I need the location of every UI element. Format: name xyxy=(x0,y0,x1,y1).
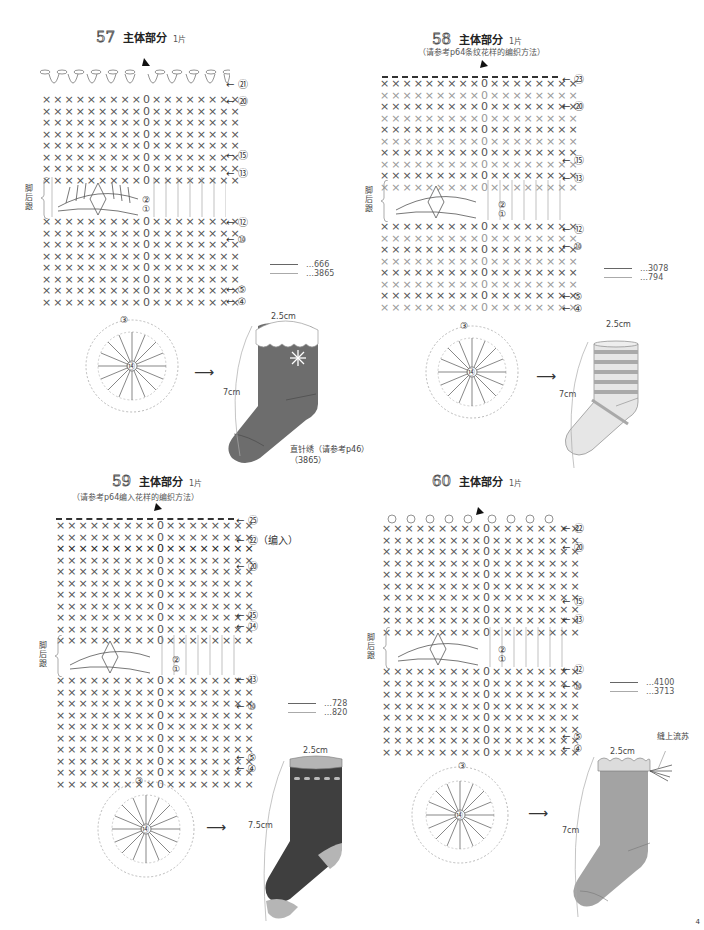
stitch-grid-upper: ×××××××××0×××××××××××××××××0××××××××××××… xyxy=(56,520,256,647)
row-marker: ← ⑩ xyxy=(562,681,583,692)
row-marker: ← ⑳ xyxy=(562,539,584,554)
heel-row-1: ① xyxy=(172,664,180,674)
circle-row-3: ③ xyxy=(120,315,128,325)
panel-title: 59主体部分1片 xyxy=(112,472,202,490)
row-marker: ← ⑬ xyxy=(236,671,258,686)
start-marker-icon xyxy=(480,60,490,70)
stitch-grid-lower: ×××××××××0×××××××××××××××××0××××××××××××… xyxy=(42,216,242,308)
row-marker: ← ④ xyxy=(236,763,257,774)
row-marker: ← ㉓ xyxy=(562,71,584,86)
panel-subtitle: （请参考p64编入花样的编织方法） xyxy=(72,491,199,502)
circle-center: ⑭ xyxy=(455,809,463,820)
stitch-grid-lower: ×××××××××0×××××××××××××××××0××××××××××××… xyxy=(382,666,582,758)
heel-label: 脚后跟 xyxy=(362,186,373,213)
row-marker: ← ㉕ xyxy=(236,512,258,527)
row-marker: ← ⑮ xyxy=(226,147,248,162)
sock-illustration xyxy=(564,336,654,472)
row-marker: ← ⑤ xyxy=(562,291,583,302)
row-marker: ← ⑳ xyxy=(236,558,258,573)
panel-title: 57主体部分1片 xyxy=(96,28,186,46)
arrow-icon: ⟶ xyxy=(536,368,556,384)
start-marker-icon xyxy=(154,503,164,513)
panel-60: 60主体部分1片 ×××××××××0×××××××××××××××××0×××… xyxy=(352,465,704,930)
row-marker: ← ⑤ xyxy=(562,731,583,742)
heel-row-1: ① xyxy=(142,204,150,214)
row-marker: ← ⑳ xyxy=(226,93,248,108)
yarn-legend: …4100 …3713 xyxy=(610,678,674,696)
row-marker: ← ④ xyxy=(226,296,247,307)
circle-row-3: ③ xyxy=(460,321,468,331)
row-marker: ← ㉒（编入） xyxy=(236,532,298,547)
sock-illustration xyxy=(262,755,352,927)
row-marker: ← ⑮ xyxy=(562,593,584,608)
row-marker: ← ⑩ xyxy=(236,701,257,712)
heel-row-1: ① xyxy=(498,209,506,219)
circle-row-3: ③ xyxy=(135,776,143,786)
yarn-legend: …666 …3865 xyxy=(270,260,334,278)
panel-title: 60主体部分1片 xyxy=(432,472,522,490)
shell-edge-icon xyxy=(40,58,230,94)
row-marker: ← ④ xyxy=(562,303,583,314)
sock-illustration xyxy=(568,751,680,921)
circle-row-3: ③ xyxy=(458,761,466,771)
arrow-icon: ⟶ xyxy=(528,805,548,821)
row-marker: ← ⑬ xyxy=(562,170,584,185)
panel-59: 59主体部分1片 （请参考p64编入花样的编织方法） ×××××××××0×××… xyxy=(0,465,352,930)
stitch-grid-upper: ×××××××××0×××××××××××××××××0××××××××××××… xyxy=(382,523,582,638)
row-marker: ← ⑭ xyxy=(236,618,258,633)
heel-chart xyxy=(36,177,226,219)
tassel-label: 缝上流苏 xyxy=(657,731,689,742)
stitch-grid-lower: ×××××××××0×××××××××××××××××0××××××××××××… xyxy=(56,675,256,790)
row-marker: ← ⑩ xyxy=(562,241,583,252)
panel-57: 57主体部分1片 ×××××××××0×××××××××××××××××0×××… xyxy=(0,0,352,465)
panel-58: 58主体部分1片 （请参考p64条纹花样的编织方法） ×××××××××0×××… xyxy=(352,0,704,465)
arrow-icon: ⟶ xyxy=(194,364,214,380)
row-marker: ← ㉑ xyxy=(226,76,248,91)
row-marker: ← ⑬ xyxy=(226,165,248,180)
yarn-legend: …728 …820 xyxy=(288,699,347,717)
panel-subtitle: （请参考p64条纹花样的编织方法） xyxy=(418,46,545,57)
heel-chart xyxy=(376,180,566,222)
row-marker: ← ⑳ xyxy=(562,98,584,113)
row-marker: ← ⑩ xyxy=(226,234,247,245)
pattern-number: 57 xyxy=(96,28,115,46)
sock-width: 2.5cm xyxy=(303,746,328,755)
pattern-number: 59 xyxy=(112,472,131,490)
yarn-legend: …3078 …794 xyxy=(604,264,668,282)
row-marker: ← ⑫ xyxy=(562,661,584,676)
stitch-grid-upper: ×××××××××0×××××××××××××××××0××××××××××××… xyxy=(380,78,580,193)
heel-label: 脚后跟 xyxy=(22,184,33,211)
circle-center: ⑭ xyxy=(127,360,135,371)
circle-center: ⑭ xyxy=(467,366,475,377)
row-marker: ← ㉒ xyxy=(562,520,584,535)
heel-label: 脚后跟 xyxy=(364,633,375,660)
row-marker: ← ⑫ xyxy=(226,214,248,229)
heel-chart xyxy=(50,635,240,677)
row-marker: ← ⑮ xyxy=(562,152,584,167)
row-marker: ← ⑫ xyxy=(562,221,584,236)
stitch-grid-upper: ×××××××××0×××××××××××××××××0××××××××××××… xyxy=(42,94,242,186)
row-marker: ← ⑬ xyxy=(562,611,584,626)
arrow-icon: ⟶ xyxy=(206,819,226,835)
heel-row-1: ① xyxy=(498,654,506,664)
stitch-grid-lower: ×××××××××0×××××××××××××××××0××××××××××××… xyxy=(380,221,580,313)
heel-chart xyxy=(378,627,568,669)
row-marker: ← ⑤ xyxy=(226,284,247,295)
pattern-number: 60 xyxy=(432,472,451,490)
page-number: 4 xyxy=(696,918,700,926)
heel-label: 脚后跟 xyxy=(36,641,47,668)
circle-center: ⑭ xyxy=(141,823,149,834)
sock-width: 2.5cm xyxy=(606,320,631,329)
row-marker: ← ⑤ xyxy=(236,752,257,763)
